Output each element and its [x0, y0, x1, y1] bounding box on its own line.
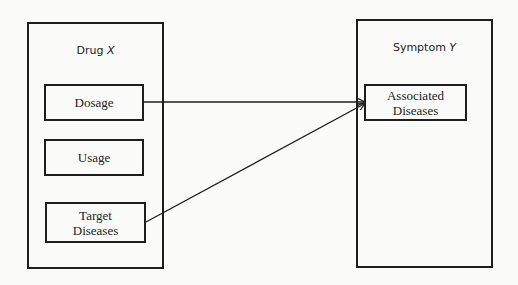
symptom-title-prefix: Symptom [393, 41, 449, 54]
dosage-box: Dosage [44, 84, 144, 121]
target-diseases-label: Target Diseases [61, 208, 130, 238]
symptom-y-title: Symptom Y [358, 41, 491, 54]
associated-diseases-box: Associated Diseases [364, 84, 467, 121]
bleed-through-text [330, 30, 335, 46]
dosage-label: Dosage [75, 95, 114, 110]
associated-diseases-label: Associated Diseases [378, 88, 453, 118]
symptom-y-group: Symptom Y [356, 19, 493, 268]
usage-box: Usage [44, 139, 144, 176]
arrow-target-diseases-to-associated-diseases [146, 104, 364, 222]
target-diseases-box: Target Diseases [45, 202, 146, 243]
drug-title-prefix: Drug [77, 44, 107, 57]
symptom-title-variable: Y [449, 41, 456, 54]
drug-x-title: Drug X [29, 44, 162, 57]
drug-title-variable: X [107, 44, 115, 57]
usage-label: Usage [78, 150, 111, 165]
